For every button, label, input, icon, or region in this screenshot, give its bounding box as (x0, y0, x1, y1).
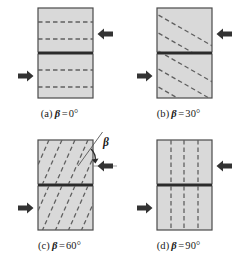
beta-symbol-a: β (54, 108, 60, 119)
panel-a: (a)β=0° (0, 0, 119, 132)
load-arrow-left (18, 203, 34, 214)
load-arrow-right (98, 29, 114, 40)
figure-container: (a)β=0° (0, 0, 238, 264)
specimen-upper-half (38, 8, 93, 52)
panel-label-b: (b) (157, 108, 171, 119)
load-arrow-left (137, 203, 153, 214)
specimen-upper-half (157, 8, 212, 52)
panel-caption-a: (a)β=0° (0, 108, 119, 119)
beta-value-b: 30° (185, 108, 200, 119)
specimen-lower-half (38, 54, 93, 98)
panel-caption-b: (b)β=30° (119, 108, 238, 119)
panel-label-d: (d) (157, 240, 171, 251)
panel-d: (d)β=90° (119, 132, 238, 264)
specimen-diagram-b (119, 0, 238, 112)
panel-c: β (c)β=60° (0, 132, 119, 264)
beta-symbol-c: β (51, 240, 57, 251)
specimen-upper-half (157, 140, 212, 184)
panel-label-a: (a) (41, 108, 54, 119)
panel-caption-c: (c)β=60° (0, 240, 119, 251)
specimen-diagram-a (0, 0, 119, 112)
panel-b: (b)β=30° (119, 0, 238, 132)
beta-value-c: 60° (66, 240, 81, 251)
specimen-lower-half (157, 186, 212, 230)
load-arrow-right (98, 161, 114, 172)
beta-value-a: 0° (69, 108, 79, 119)
load-arrow-left (137, 71, 153, 82)
specimen-diagram-d (119, 132, 238, 244)
beta-value-d: 90° (185, 240, 200, 251)
equals-sign-c: = (58, 240, 66, 251)
load-arrow-right (217, 29, 233, 40)
load-arrow-left (18, 71, 34, 82)
panel-label-c: (c) (38, 240, 51, 251)
load-arrow-right (217, 161, 233, 172)
angle-beta-label: β (102, 136, 109, 149)
equals-sign-a: = (61, 108, 69, 119)
panel-caption-d: (d)β=90° (119, 240, 238, 251)
specimen-diagram-c: β (0, 132, 119, 244)
